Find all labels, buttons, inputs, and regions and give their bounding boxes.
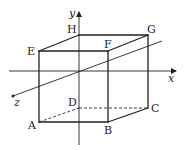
z-axis xyxy=(13,41,162,96)
vertex-label-G: G xyxy=(147,23,156,36)
hidden-edge-AD xyxy=(39,108,79,122)
edge-BC xyxy=(108,108,148,122)
vertex-label-D: D xyxy=(68,96,77,109)
vertex-label-A: A xyxy=(27,119,37,132)
edge-EH xyxy=(39,35,79,51)
x-axis-label: x xyxy=(168,72,175,85)
cube-coordinate-diagram: xyzABCDEFGH xyxy=(0,0,185,150)
vertex-label-E: E xyxy=(27,45,35,58)
vertex-label-B: B xyxy=(104,124,112,137)
vertex-label-F: F xyxy=(104,38,112,51)
vertex-label-H: H xyxy=(67,23,77,36)
z-axis-label: z xyxy=(13,96,20,109)
diagram-canvas: xyzABCDEFGH xyxy=(0,0,185,150)
y-axis-label: y xyxy=(68,7,76,20)
vertex-label-C: C xyxy=(151,102,159,115)
